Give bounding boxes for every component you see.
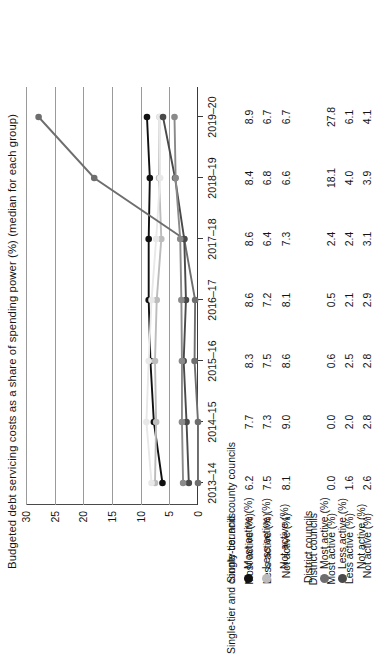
series-point	[180, 480, 187, 487]
y-axis-tick-label: 30	[21, 511, 32, 523]
series-point	[148, 297, 155, 304]
table-row: Most active (%)6.27.78.38.68.68.48.9	[244, 87, 262, 505]
x-axis-tick-label: 2016–17	[206, 279, 218, 320]
table-cell: 2.4	[344, 232, 355, 246]
table-cell: 6.1	[344, 110, 355, 124]
table-cell: 1.6	[344, 476, 355, 490]
table-cell: 2.0	[344, 415, 355, 429]
series-point	[186, 480, 193, 487]
x-axis-tick-label: 2018–19	[206, 157, 218, 198]
legend-item[interactable]: Most active (%)	[316, 511, 334, 583]
table-cell: 2.5	[344, 354, 355, 368]
series-point	[195, 419, 202, 426]
table-cell: 7.7	[244, 415, 255, 429]
table-cell: 2.9	[362, 293, 373, 307]
legend-item-label: Most active (%)	[243, 497, 254, 569]
legend-marker-dot-icon	[262, 574, 271, 583]
legend-item[interactable]: Not active (%)	[352, 511, 370, 583]
series-point	[157, 175, 164, 182]
table-cell: 4.1	[362, 110, 373, 124]
x-axis-tick	[198, 177, 203, 178]
table-cell: 8.1	[281, 293, 292, 307]
y-axis-tick-label: 5	[164, 511, 175, 517]
series-point	[152, 358, 159, 365]
legend-item-label: Not active (%)	[279, 504, 290, 569]
table-cell: 4.0	[344, 171, 355, 185]
series-point	[91, 175, 98, 182]
table-row: Less active (%)7.57.37.57.26.46.86.7	[262, 87, 280, 505]
x-axis-tick	[198, 238, 203, 239]
y-axis-tick-label: 10	[135, 511, 146, 523]
x-axis-tick-label: 2017–18	[206, 218, 218, 259]
series-point	[35, 114, 42, 121]
legend-item-label: Not active (%)	[356, 504, 367, 569]
table-cell: 8.6	[281, 354, 292, 368]
table-cell: 7.2	[262, 293, 273, 307]
legend-marker-dot-icon	[338, 574, 347, 583]
legend-marker-dot-icon	[320, 574, 329, 583]
table-cell: 2.1	[344, 293, 355, 307]
table-cell: 3.1	[362, 232, 373, 246]
table-row: Less active (%)1.62.02.52.12.44.06.1	[344, 87, 362, 505]
table-cell: 6.4	[262, 232, 273, 246]
legend-marker-dot-icon	[280, 574, 289, 583]
legend-item[interactable]: Not active (%)	[275, 511, 293, 583]
legend-item-label: Less active (%)	[261, 498, 272, 569]
table-cell: 8.3	[244, 354, 255, 368]
x-axis-tick-label: 2014–15	[206, 401, 218, 442]
legend-item[interactable]: Most active (%)	[239, 511, 257, 583]
x-axis-tick-label: 2013–14	[206, 462, 218, 503]
series-point	[171, 114, 178, 121]
data-table: Single-tier and county councilsMost acti…	[226, 87, 381, 505]
table-cell: 2.6	[362, 476, 373, 490]
series-point	[148, 480, 155, 487]
chart-legend: Single-tier and county councilsMost acti…	[226, 511, 370, 583]
legend-item-label: Less active (%)	[337, 498, 348, 569]
table-cell: 0.0	[326, 415, 337, 429]
chart-title: Budgeted debt servicing costs as a share…	[6, 114, 18, 569]
table-cell: 27.8	[326, 107, 337, 127]
table-cell: 7.5	[262, 476, 273, 490]
table-cell: 0.5	[326, 293, 337, 307]
series-point	[191, 358, 198, 365]
table-cell: 2.8	[362, 415, 373, 429]
series-point	[153, 419, 160, 426]
table-cell: 8.9	[244, 110, 255, 124]
legend-item[interactable]: Less active (%)	[334, 511, 352, 583]
x-axis-tick	[198, 299, 203, 300]
table-cell: 0.6	[326, 354, 337, 368]
series-point	[177, 236, 184, 243]
series-point	[172, 175, 179, 182]
table-cell: 0.0	[326, 476, 337, 490]
table-cell: 8.4	[244, 171, 255, 185]
series-point	[143, 419, 150, 426]
series-point	[178, 297, 185, 304]
y-axis-tick-label: 20	[78, 511, 89, 523]
legend-marker-dot-icon	[357, 574, 366, 583]
series-point	[145, 236, 152, 243]
table-cell: 8.6	[244, 232, 255, 246]
y-axis-tick-label: 15	[107, 511, 118, 523]
table-cell: 7.3	[262, 415, 273, 429]
table-cell: 6.8	[262, 171, 273, 185]
series-point	[192, 297, 199, 304]
legend-item-label: Most active (%)	[319, 497, 330, 569]
series-point	[195, 480, 202, 487]
legend-item[interactable]: Less active (%)	[257, 511, 275, 583]
legend-group-title: Single-tier and county councils	[226, 511, 237, 583]
table-cell: 6.7	[262, 110, 273, 124]
series-point	[144, 114, 151, 121]
table-row: Most active (%)0.00.00.60.52.418.127.8	[326, 87, 344, 505]
y-axis-tick-label: 25	[49, 511, 60, 523]
table-row: Not active (%)2.62.82.82.93.13.94.1	[362, 87, 380, 505]
table-cell: 8.6	[244, 293, 255, 307]
plot-area: 051015202530 2013–142014–152015–162016–1…	[26, 87, 198, 505]
series-point	[179, 358, 186, 365]
table-cell: 3.9	[362, 171, 373, 185]
table-cell: 7.5	[262, 354, 273, 368]
table-cell: 6.6	[281, 171, 292, 185]
table-row: Not active (%)8.19.08.68.17.36.66.7	[281, 87, 299, 505]
table-cell: 6.7	[281, 110, 292, 124]
x-axis-tick	[198, 360, 203, 361]
